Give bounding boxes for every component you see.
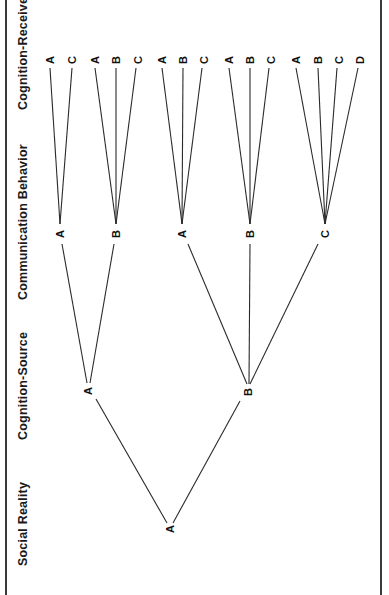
node-cognition-receiver-leaf: B <box>176 53 190 67</box>
node-cognition-receiver-leaf: C <box>264 53 278 67</box>
edge-cs-b-to-cb-a <box>188 244 247 384</box>
edge-sr-a-to-cs-a <box>96 399 167 523</box>
edge-cs-b-to-cb-c <box>250 244 318 384</box>
node-cognition-receiver-leaf: B <box>109 53 123 67</box>
node-cognition-source-a: A <box>81 384 95 398</box>
node-social-reality-a: A <box>163 522 177 536</box>
node-cognition-receiver-leaf: C <box>332 53 346 67</box>
node-cognition-receiver-leaf: C <box>197 53 211 67</box>
diagram-frame: Cognition-Receiver Communication Behavio… <box>0 0 389 595</box>
tree-edges <box>0 0 389 595</box>
node-cognition-receiver-leaf: A <box>155 53 169 67</box>
node-communication-behavior-a: A <box>175 227 189 241</box>
node-cognition-receiver-leaf: A <box>88 53 102 67</box>
node-cognition-receiver-leaf: C <box>65 53 79 67</box>
edge-cs-a-to-cb-b <box>90 244 114 383</box>
node-cognition-receiver-leaf: B <box>311 53 325 67</box>
node-cognition-receiver-leaf: A <box>43 53 57 67</box>
node-cognition-receiver-leaf: B <box>243 53 257 67</box>
edge-sr-a-to-cs-b <box>173 401 240 523</box>
edge-cs-a-to-cb-a <box>62 244 87 383</box>
node-cognition-receiver-leaf: D <box>353 53 367 67</box>
edge-cs-b-to-cb-b <box>249 244 250 384</box>
node-cognition-source-b: B <box>241 385 255 399</box>
node-communication-behavior-b: B <box>243 227 257 241</box>
node-communication-behavior-b: B <box>109 227 123 241</box>
node-cognition-receiver-leaf: A <box>289 53 303 67</box>
node-cognition-receiver-leaf: A <box>222 53 236 67</box>
node-cognition-receiver-leaf: C <box>131 53 145 67</box>
node-communication-behavior-c: C <box>318 227 332 241</box>
node-communication-behavior-a: A <box>53 227 67 241</box>
